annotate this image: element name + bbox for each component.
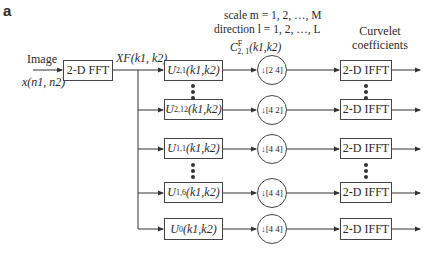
filter-block-row-3: U1,1(k1,k2) bbox=[164, 138, 223, 159]
ellipsis-dots-ifft-1 bbox=[364, 84, 368, 102]
ifft-block-row-4: 2-D IFFT bbox=[340, 182, 392, 203]
downsample-node-row-1: ↓[2 4] bbox=[257, 55, 287, 85]
fft-block: 2-D FFT bbox=[63, 60, 113, 81]
downsample-node-row-3: ↓[4 4] bbox=[257, 134, 287, 164]
ifft-block-row-5: 2-D IFFT bbox=[340, 218, 392, 240]
panel-label: a bbox=[3, 3, 11, 18]
filter-block-row-5: U0(k1,k2) bbox=[164, 218, 223, 240]
filter-block-row-4: U1,6(k1,k2) bbox=[164, 182, 223, 203]
downsample-node-row-2: ↓[4 2] bbox=[257, 95, 287, 125]
scale-label: scale m = 1, 2, …, M bbox=[224, 10, 322, 22]
coefficient-label: CF2, 1(k1,k2) bbox=[230, 40, 281, 56]
filter-block-row-1: U2,1(k1,k2) bbox=[164, 60, 223, 81]
ifft-block-row-1: 2-D IFFT bbox=[340, 60, 392, 81]
input-signal-label: x(n1, n2) bbox=[22, 76, 65, 88]
ifft-block-row-2: 2-D IFFT bbox=[340, 99, 392, 120]
ifft-block-row-3: 2-D IFFT bbox=[340, 138, 392, 159]
ellipsis-dots-filters-1 bbox=[191, 84, 195, 102]
downsample-node-row-4: ↓[4 4] bbox=[257, 178, 287, 208]
ellipsis-dots-filters-2 bbox=[191, 163, 195, 181]
filter-block-row-2: U2,12(k1,k2) bbox=[164, 99, 223, 120]
direction-label: direction l = 1, 2, …, L bbox=[214, 24, 320, 36]
output-label: Curvelet coefficients bbox=[350, 25, 410, 51]
downsample-node-row-5: ↓[4 4] bbox=[257, 214, 287, 244]
spectrum-label: XF(k1, k2) bbox=[116, 52, 167, 64]
ellipsis-dots-ifft-2 bbox=[364, 163, 368, 181]
image-label: Image bbox=[27, 53, 57, 65]
